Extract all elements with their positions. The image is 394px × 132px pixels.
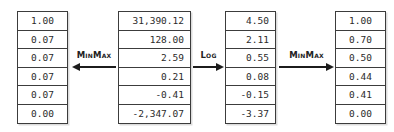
- operation-minmax-right: MinMax: [279, 50, 334, 72]
- value-cell: 0.50: [336, 49, 385, 68]
- value-cell: 0.70: [336, 31, 385, 50]
- value-cell: 31,390.12: [119, 12, 190, 31]
- operation-minmax-left: MinMax: [72, 50, 116, 72]
- arrow-left-icon: [72, 62, 116, 72]
- value-cell: 0.44: [336, 68, 385, 87]
- value-cell: -2,347.07: [119, 105, 190, 124]
- value-cell: 0.41: [336, 86, 385, 105]
- value-cell: -0.41: [119, 86, 190, 105]
- value-cell: -0.15: [226, 86, 275, 105]
- arrow-right-icon: [193, 62, 224, 72]
- operation-label: MinMax: [279, 50, 334, 61]
- arrow-right-icon: [279, 62, 334, 72]
- value-cell: 0.00: [336, 105, 385, 124]
- value-cell: 0.21: [119, 68, 190, 87]
- value-cell: 0.07: [18, 49, 67, 68]
- value-column-log: 4.50 2.11 0.55 0.08 -0.15 -3.37: [225, 11, 276, 124]
- value-cell: 0.07: [18, 31, 67, 50]
- value-column-minmax-raw: 1.00 0.07 0.07 0.07 0.07 0.00: [17, 11, 68, 124]
- value-cell: 1.00: [18, 12, 67, 31]
- value-cell: 128.00: [119, 31, 190, 50]
- value-cell: 2.59: [119, 49, 190, 68]
- value-cell: 1.00: [336, 12, 385, 31]
- value-cell: 0.07: [18, 68, 67, 87]
- value-cell: 2.11: [226, 31, 275, 50]
- value-cell: 0.07: [18, 86, 67, 105]
- value-cell: 0.55: [226, 49, 275, 68]
- operation-label: Log: [193, 50, 224, 61]
- value-cell: -3.37: [226, 105, 275, 124]
- value-cell: 0.00: [18, 105, 67, 124]
- value-cell: 0.08: [226, 68, 275, 87]
- operation-label: MinMax: [72, 50, 116, 61]
- value-column-raw: 31,390.12 128.00 2.59 0.21 -0.41 -2,347.…: [118, 11, 191, 124]
- operation-log-right: Log: [193, 50, 224, 72]
- value-column-minmax-log: 1.00 0.70 0.50 0.44 0.41 0.00: [335, 11, 386, 124]
- value-cell: 4.50: [226, 12, 275, 31]
- transformation-pipeline-diagram: 1.00 0.07 0.07 0.07 0.07 0.00 MinMax 31,…: [0, 0, 394, 132]
